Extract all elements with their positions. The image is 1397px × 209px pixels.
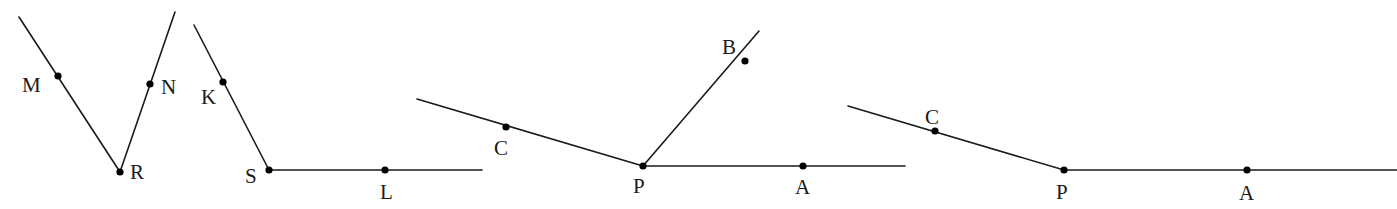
label-c: C [925, 105, 939, 129]
figure-angle-mrn: M N R [19, 12, 176, 184]
point-k [219, 78, 226, 85]
point-a [799, 162, 806, 169]
figure-angle-ksl: K S L [194, 25, 482, 204]
point-s [265, 166, 272, 173]
geometry-diagram: M N R K S L C B P A C P A [0, 0, 1397, 209]
point-m [54, 72, 61, 79]
label-a: A [795, 175, 811, 199]
figure-angles-cpb-bpa: C B P A [417, 31, 905, 199]
ray-pc [417, 99, 643, 166]
point-p [1060, 166, 1067, 173]
label-a: A [1239, 181, 1255, 205]
point-p [639, 162, 646, 169]
point-a [1243, 166, 1250, 173]
figure-angle-cpa: C P A [848, 105, 1397, 205]
label-p: P [1056, 180, 1068, 204]
label-b: B [722, 35, 736, 59]
label-s: S [245, 164, 257, 188]
point-l [381, 166, 388, 173]
ray-pb [643, 31, 759, 166]
label-n: N [161, 75, 176, 99]
label-l: L [380, 180, 393, 204]
point-b [741, 57, 748, 64]
label-p: P [633, 174, 645, 198]
point-n [146, 80, 153, 87]
label-m: M [22, 73, 41, 97]
ray-pc [848, 106, 1064, 170]
point-c [502, 123, 509, 130]
point-r [116, 168, 123, 175]
label-k: K [201, 85, 216, 109]
label-r: R [130, 160, 144, 184]
label-c: C [494, 136, 508, 160]
